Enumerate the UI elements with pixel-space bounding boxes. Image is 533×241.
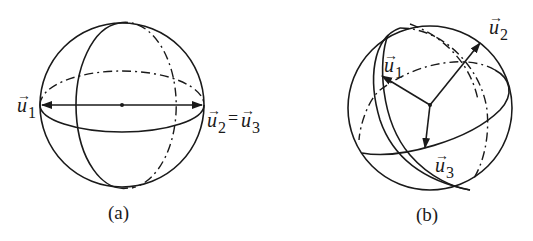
label-u2-a: → u 2 (207, 103, 226, 136)
svg-text:1: 1 (28, 104, 36, 121)
svg-text:u: u (435, 154, 445, 176)
label-u1-a: → u 1 (17, 88, 36, 121)
panel-a: → u 1 → u 2 = → u 3 (a) (17, 22, 260, 224)
svg-text:2: 2 (218, 119, 226, 136)
svg-text:u: u (241, 109, 251, 131)
label-u1-b: → u 1 (384, 48, 403, 81)
label-u2-b: → u 2 (489, 10, 508, 43)
svg-text:u: u (17, 94, 27, 116)
sphere-a-equator-front (40, 105, 204, 132)
svg-text:u: u (489, 16, 499, 38)
caption-b: (b) (416, 204, 438, 226)
panel-b: → u 1 → u 2 → u 3 (b) (348, 10, 512, 226)
diagram-canvas: → u 1 → u 2 = → u 3 (a) (0, 0, 533, 241)
sphere-a-center-point (120, 103, 124, 107)
sphere-b-circle1-front (362, 70, 509, 154)
svg-text:u: u (384, 54, 394, 76)
vector-u2-arrow (430, 43, 480, 105)
svg-text:u: u (207, 109, 217, 131)
caption-a: (a) (108, 202, 129, 224)
label-u3-b: → u 3 (435, 148, 454, 181)
equals-sign: = (228, 108, 238, 128)
svg-text:2: 2 (500, 26, 508, 43)
sphere-a-equator-back (40, 71, 204, 105)
label-u3-a: → u 3 (241, 103, 260, 136)
svg-text:1: 1 (395, 64, 403, 81)
svg-text:3: 3 (446, 164, 454, 181)
vector-u1-arrow (382, 76, 430, 105)
sphere-b-center-point (428, 103, 432, 107)
vector-u3-arrow (425, 105, 430, 148)
svg-text:3: 3 (252, 119, 260, 136)
